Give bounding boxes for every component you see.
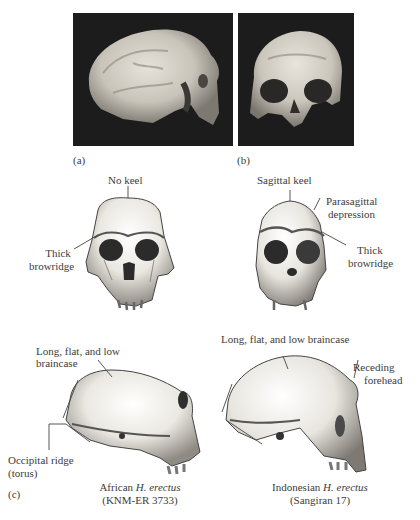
label-torus: (torus) <box>8 467 37 480</box>
label-braincase-left-2: braincase <box>36 357 78 370</box>
label-receding-forehead-2: forehead <box>364 374 402 387</box>
label-parasagittal-2: depression <box>328 208 375 221</box>
caption-indonesian: Indonesian H. erectus (Sangiran 17) <box>260 481 380 507</box>
caption-african-species: H. erectus <box>136 481 181 493</box>
caption-indonesian-species: H. erectus <box>323 481 368 493</box>
caption-indonesian-specimen: (Sangiran 17) <box>290 494 350 506</box>
frontal-skull-african <box>86 198 174 310</box>
panel-label-c: (c) <box>8 488 20 500</box>
caption-african-specimen: (KNM-ER 3733) <box>102 494 177 506</box>
label-receding-forehead-1: Receding <box>353 361 395 374</box>
label-parasagittal-1: Parasagittal <box>326 195 377 208</box>
label-sagittal-keel: Sagittal keel <box>257 174 312 187</box>
caption-african-prefix: African <box>99 481 135 493</box>
frontal-skull-indonesian <box>256 201 326 310</box>
label-thick-browridge-right-1: Thick <box>357 244 383 257</box>
caption-african: African H. erectus (KNM-ER 3733) <box>90 481 190 507</box>
label-thick-browridge-left-2: browridge <box>29 260 74 273</box>
label-braincase-right: Long, flat, and low braincase <box>221 333 349 346</box>
label-thick-browridge-right-2: browridge <box>348 257 393 270</box>
caption-indonesian-prefix: Indonesian <box>272 481 323 493</box>
label-no-keel: No keel <box>108 174 143 187</box>
label-occipital-ridge: Occipital ridge <box>8 454 74 467</box>
lateral-skull-african <box>66 370 200 474</box>
lateral-skull-indonesian <box>226 356 366 472</box>
label-thick-browridge-left-1: Thick <box>40 247 76 260</box>
